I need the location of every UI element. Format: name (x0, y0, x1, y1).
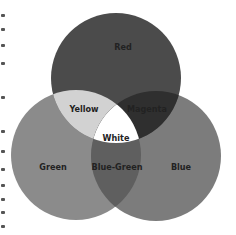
label-magenta: Magenta (127, 104, 167, 114)
color-venn-diagram: Red Yellow Magenta White Green Blue-Gree… (0, 0, 236, 235)
label-red: Red (114, 42, 132, 52)
label-yellow: Yellow (68, 104, 99, 114)
label-blue: Blue (171, 162, 192, 172)
label-white: White (103, 133, 130, 143)
label-green: Green (39, 162, 67, 172)
label-blue-green: Blue-Green (92, 162, 143, 172)
